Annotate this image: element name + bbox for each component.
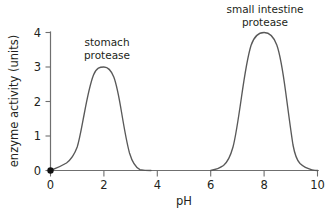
- small-intestine-protease-label-line1: small intestine: [226, 3, 303, 15]
- y-tick-label-4: 4: [34, 26, 41, 40]
- stomach-protease-annotation: stomach protease: [84, 36, 130, 61]
- y-axis-ticks: [46, 33, 51, 171]
- stomach-protease-label-line2: protease: [84, 49, 130, 61]
- curve-stomach-protease: [51, 67, 152, 171]
- x-tick-label-0: 0: [47, 178, 54, 192]
- stomach-protease-label-line1: stomach: [84, 36, 129, 48]
- x-tick-label-8: 8: [260, 178, 267, 192]
- curve-small-intestine-protease: [211, 33, 318, 171]
- y-tick-label-3: 3: [34, 60, 41, 74]
- y-tick-label-2: 2: [34, 95, 41, 109]
- x-tick-label-10: 10: [310, 178, 325, 192]
- chart-svg: 0 1 2 3 4 0 2 4 6 8 10 pH enzyme activit…: [0, 0, 335, 211]
- y-axis-title: enzyme activity (units): [7, 35, 21, 167]
- x-tick-label-2: 2: [100, 178, 107, 192]
- enzyme-activity-chart: 0 1 2 3 4 0 2 4 6 8 10 pH enzyme activit…: [0, 0, 335, 211]
- origin-dot-marker: [47, 167, 53, 173]
- small-intestine-protease-label-line2: protease: [242, 16, 288, 28]
- small-intestine-protease-annotation: small intestine protease: [226, 3, 303, 28]
- x-tick-label-4: 4: [154, 178, 161, 192]
- x-tick-label-6: 6: [207, 178, 214, 192]
- x-axis-ticks: [51, 171, 318, 177]
- x-axis-title: pH: [176, 194, 192, 208]
- y-tick-label-0: 0: [34, 164, 41, 178]
- y-tick-label-1: 1: [34, 129, 41, 143]
